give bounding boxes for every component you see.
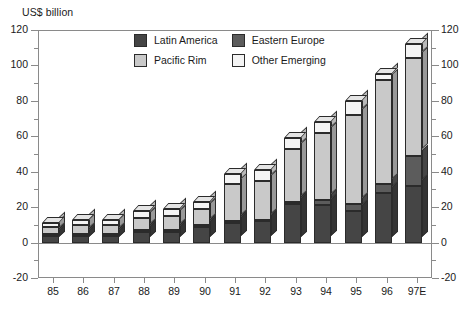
y-tick-r-60 xyxy=(432,136,439,137)
bar-segment-93-pacific-rim[interactable] xyxy=(284,149,301,202)
bar-side-face-95 xyxy=(362,199,368,236)
bar-segment-97E-latin-america[interactable] xyxy=(405,186,422,243)
y-tick-r-10 xyxy=(432,225,436,226)
bar-group-92[interactable] xyxy=(254,30,277,278)
bar-group-97E[interactable] xyxy=(405,30,428,278)
y-tick-r-110 xyxy=(432,48,436,49)
bar-group-88[interactable] xyxy=(133,30,156,278)
bar-segment-92-latin-america[interactable] xyxy=(254,221,271,242)
y-tick-l-100 xyxy=(31,65,38,66)
bar-segment-97E-eastern-europe[interactable] xyxy=(405,156,422,186)
bar-side-face-96 xyxy=(392,68,398,178)
bar-segment-93-latin-america[interactable] xyxy=(284,204,301,243)
bar-segment-90-other-emerging[interactable] xyxy=(193,202,210,209)
bar-segment-88-pacific-rim[interactable] xyxy=(133,218,150,230)
bar-segment-97E-pacific-rim[interactable] xyxy=(405,58,422,155)
y-axis-label-right-40: 40 xyxy=(441,166,469,177)
bar-segment-87-eastern-europe[interactable] xyxy=(102,234,119,236)
legend-item-eastern-europe[interactable]: Eastern Europe xyxy=(232,34,326,47)
bar-group-94[interactable] xyxy=(314,30,337,278)
bar-segment-86-pacific-rim[interactable] xyxy=(72,225,89,234)
bar-segment-97E-other-emerging[interactable] xyxy=(405,44,422,58)
bar-segment-85-latin-america[interactable] xyxy=(42,236,59,243)
y-axis-label-left-40: 40 xyxy=(0,166,28,177)
x-axis-label-85: 85 xyxy=(47,286,59,297)
legend-swatch-icon xyxy=(232,54,245,67)
y-axis-label-right-60: 60 xyxy=(441,130,469,141)
bar-segment-94-latin-america[interactable] xyxy=(314,205,331,242)
x-axis-label-93: 93 xyxy=(290,286,302,297)
legend-label: Pacific Rim xyxy=(154,55,207,66)
bar-segment-92-eastern-europe[interactable] xyxy=(254,219,271,221)
bar-segment-87-other-emerging[interactable] xyxy=(102,220,119,225)
bar-segment-89-pacific-rim[interactable] xyxy=(163,216,180,230)
y-axis-label-left--20: -20 xyxy=(0,272,28,283)
bar-segment-91-pacific-rim[interactable] xyxy=(224,184,241,221)
y-axis-label-left-0: 0 xyxy=(0,237,28,248)
bar-segment-90-pacific-rim[interactable] xyxy=(193,209,210,225)
bar-group-90[interactable] xyxy=(193,30,216,278)
bar-segment-88-latin-america[interactable] xyxy=(133,232,150,243)
bar-segment-88-eastern-europe[interactable] xyxy=(133,230,150,232)
bar-segment-86-latin-america[interactable] xyxy=(72,236,89,243)
y-axis-label-left-20: 20 xyxy=(0,201,28,212)
bar-segment-89-other-emerging[interactable] xyxy=(163,209,180,216)
y-tick-r--20 xyxy=(432,278,439,279)
y-tick-l-80 xyxy=(31,101,38,102)
legend-swatch-icon xyxy=(134,54,147,67)
bar-group-95[interactable] xyxy=(345,30,368,278)
bar-segment-88-other-emerging[interactable] xyxy=(133,211,150,218)
bar-segment-95-eastern-europe[interactable] xyxy=(345,204,362,211)
bar-segment-90-eastern-europe[interactable] xyxy=(193,225,210,227)
bar-segment-90-latin-america[interactable] xyxy=(193,227,210,243)
bar-segment-89-latin-america[interactable] xyxy=(163,232,180,243)
x-axis-label-91: 91 xyxy=(229,286,241,297)
bar-segment-85-eastern-europe[interactable] xyxy=(42,234,59,236)
bar-segment-86-eastern-europe[interactable] xyxy=(72,234,89,236)
bar-group-96[interactable] xyxy=(375,30,398,278)
bar-side-face-97E xyxy=(422,47,428,150)
bar-segment-89-eastern-europe[interactable] xyxy=(163,230,180,232)
bar-segment-96-latin-america[interactable] xyxy=(375,193,392,243)
y-axis-label-right-0: 0 xyxy=(441,237,469,248)
bar-segment-87-latin-america[interactable] xyxy=(102,236,119,243)
bar-segment-91-other-emerging[interactable] xyxy=(224,174,241,185)
x-axis-label-95: 95 xyxy=(350,286,362,297)
bar-segment-85-pacific-rim[interactable] xyxy=(42,227,59,234)
bar-group-86[interactable] xyxy=(72,30,95,278)
y-tick-l-20 xyxy=(31,207,38,208)
legend-label: Other Emerging xyxy=(252,55,326,66)
legend-item-latin-america[interactable]: Latin America xyxy=(134,34,218,47)
bar-group-91[interactable] xyxy=(224,30,247,278)
bar-segment-95-pacific-rim[interactable] xyxy=(345,115,362,204)
bar-segment-96-other-emerging[interactable] xyxy=(375,74,392,79)
bar-segment-85-other-emerging[interactable] xyxy=(42,223,59,227)
x-tick-93 xyxy=(296,278,297,283)
bar-group-93[interactable] xyxy=(284,30,307,278)
bar-segment-94-other-emerging[interactable] xyxy=(314,122,331,133)
bar-segment-93-other-emerging[interactable] xyxy=(284,138,301,149)
bar-segment-91-eastern-europe[interactable] xyxy=(224,221,241,223)
bar-group-85[interactable] xyxy=(42,30,65,278)
bar-side-face-93 xyxy=(301,192,307,236)
bar-segment-96-pacific-rim[interactable] xyxy=(375,80,392,185)
bar-segment-94-pacific-rim[interactable] xyxy=(314,133,331,200)
bar-segment-95-latin-america[interactable] xyxy=(345,211,362,243)
bar-segment-87-pacific-rim[interactable] xyxy=(102,225,119,234)
legend-swatch-icon xyxy=(134,34,147,47)
bar-group-89[interactable] xyxy=(163,30,186,278)
legend-item-other-emerging[interactable]: Other Emerging xyxy=(232,54,326,67)
bar-segment-94-eastern-europe[interactable] xyxy=(314,200,331,205)
bar-segment-96-eastern-europe[interactable] xyxy=(375,184,392,193)
bar-segment-92-pacific-rim[interactable] xyxy=(254,181,271,220)
bar-segment-92-other-emerging[interactable] xyxy=(254,170,271,181)
bar-group-87[interactable] xyxy=(102,30,125,278)
bar-segment-91-latin-america[interactable] xyxy=(224,223,241,242)
bar-segment-93-eastern-europe[interactable] xyxy=(284,202,301,204)
x-axis-label-92: 92 xyxy=(259,286,271,297)
bar-segment-86-other-emerging[interactable] xyxy=(72,220,89,225)
legend-item-pacific-rim[interactable]: Pacific Rim xyxy=(134,54,218,67)
y-tick-r-20 xyxy=(432,207,439,208)
legend-label: Eastern Europe xyxy=(252,35,325,46)
bar-segment-95-other-emerging[interactable] xyxy=(345,101,362,115)
